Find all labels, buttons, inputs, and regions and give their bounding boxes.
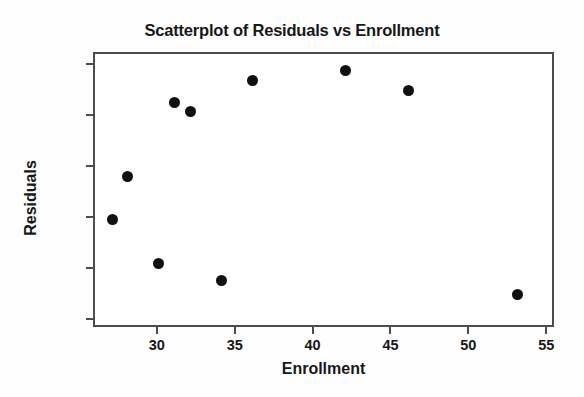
y-tick-mark <box>86 267 93 269</box>
scatterplot-figure: Scatterplot of Residuals vs Enrollment 5… <box>0 0 584 397</box>
x-tick-mark <box>156 327 158 334</box>
x-tick-label: 30 <box>149 337 165 353</box>
y-tick-mark <box>86 114 93 116</box>
data-point <box>512 289 523 300</box>
x-tick-label: 40 <box>305 337 321 353</box>
data-point <box>185 106 196 117</box>
x-tick-label: 45 <box>382 337 398 353</box>
y-axis-title: Residuals <box>22 128 40 268</box>
data-points-layer <box>95 54 552 325</box>
x-axis-title: Enrollment <box>93 360 554 378</box>
x-tick-mark <box>312 327 314 334</box>
x-tick-label: 50 <box>460 337 476 353</box>
data-point <box>153 258 164 269</box>
plot-area <box>93 52 554 327</box>
data-point <box>122 171 133 182</box>
data-point <box>247 75 258 86</box>
x-axis: 303540455055 Enrollment <box>0 327 584 397</box>
y-tick-mark <box>86 63 93 65</box>
y-tick-mark <box>86 216 93 218</box>
x-tick-mark <box>467 327 469 334</box>
data-point <box>403 85 414 96</box>
data-point <box>216 275 227 286</box>
data-point <box>107 214 118 225</box>
x-tick-mark <box>234 327 236 334</box>
x-tick-label: 55 <box>538 337 554 353</box>
data-point <box>340 65 351 76</box>
x-tick-label: 35 <box>227 337 243 353</box>
data-point <box>169 97 180 108</box>
y-tick-mark <box>86 318 93 320</box>
x-tick-mark <box>545 327 547 334</box>
y-tick-mark <box>86 165 93 167</box>
x-tick-mark <box>389 327 391 334</box>
